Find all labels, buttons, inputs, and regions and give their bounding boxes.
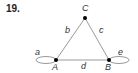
vertex-C: [83, 16, 87, 20]
edge-label-b: b: [65, 26, 70, 35]
edge-label-e: e: [118, 48, 123, 57]
edge-e-loop: [109, 57, 129, 64]
edge-label-c: c: [99, 26, 104, 35]
graph-diagram: [0, 0, 138, 73]
edge-b: [56, 18, 85, 60]
vertex-label-C: C: [82, 4, 89, 13]
edge-c: [85, 18, 109, 60]
edge-label-d: d: [81, 62, 86, 71]
edge-label-a: a: [35, 48, 40, 57]
vertex-label-B: B: [105, 63, 111, 72]
vertex-label-A: A: [52, 63, 58, 72]
